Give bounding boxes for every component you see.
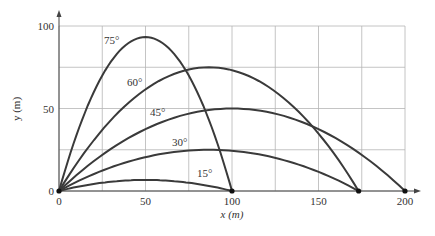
- trajectory-chart: 050100150200050100 75°60°45°30°15° x (m)…: [0, 0, 435, 236]
- angle-label: 75°: [104, 34, 119, 46]
- angle-label: 60°: [127, 76, 142, 88]
- y-axis-arrow-icon: [57, 10, 62, 17]
- angle-label: 45°: [150, 106, 165, 118]
- x-tick-label: 100: [224, 195, 241, 207]
- y-axis-label: y (m): [10, 97, 23, 121]
- angle-label: 15°: [197, 167, 212, 179]
- landing-point: [356, 188, 361, 193]
- y-tick-label: 50: [43, 103, 55, 115]
- x-tick-label: 50: [140, 195, 152, 207]
- y-tick-label: 100: [38, 20, 55, 32]
- x-tick-label: 150: [310, 195, 327, 207]
- landing-point: [402, 188, 407, 193]
- landing-point: [56, 188, 61, 193]
- angle-labels: 75°60°45°30°15°: [104, 34, 212, 179]
- landing-point: [229, 188, 234, 193]
- x-tick-label: 0: [56, 195, 62, 207]
- x-axis-arrow-icon: [414, 189, 421, 194]
- x-tick-label: 200: [397, 195, 414, 207]
- angle-label: 30°: [172, 136, 187, 148]
- x-axis-label: x (m): [220, 208, 244, 221]
- y-tick-label: 0: [49, 185, 55, 197]
- tick-labels: 050100150200050100: [38, 20, 414, 207]
